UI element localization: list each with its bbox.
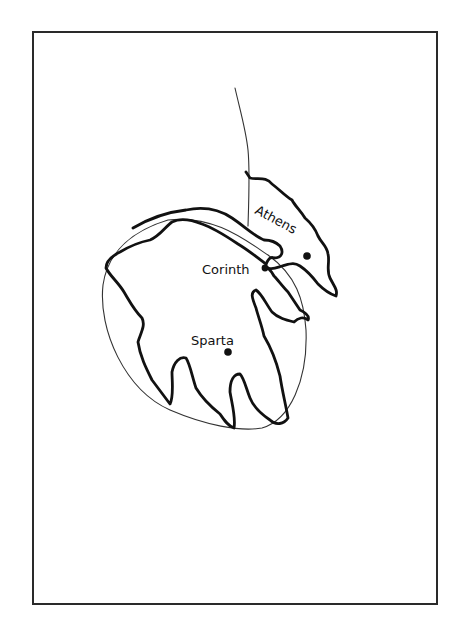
sparta-label: Sparta [191,333,234,348]
athens-label: Athens [253,202,300,236]
sparta-dot [224,348,232,356]
peloponnese-coastline [106,220,308,428]
boundary-line [235,88,249,226]
corinth-dot [262,265,269,272]
peloponnese-map: Athens Corinth Sparta [0,0,464,633]
corinth-label: Corinth [202,262,250,277]
athens-dot [303,252,311,260]
